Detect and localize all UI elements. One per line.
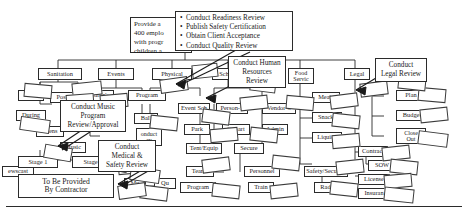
music-line-3: Review/Approval [64,121,122,130]
legal-line-1: Conduct [379,61,423,70]
medical-line-2: Medical & [102,152,152,161]
medical-line-1: Conduct [102,143,152,152]
readiness-item: Obtain Client Acceptance [186,32,289,41]
conduct-legal-review-callout[interactable]: Conduct Legal Review [375,58,427,82]
readiness-item: Conduct Readiness Review [186,14,289,23]
music-line-1: Conduct Music [64,103,122,112]
conduct-human-resources-review-callout[interactable]: Conduct Human Resources Review [228,56,286,88]
conduct-music-program-review-callout[interactable]: Conduct Music Program Review/Approval [60,100,126,132]
legal-line-2: Legal Review [379,70,423,79]
hr-line-1: Conduct Human [232,59,282,68]
hr-line-3: Review [232,77,282,86]
readiness-item: Publish Safety Certification [186,23,289,32]
hr-line-2: Resources [232,68,282,77]
medical-line-3: Safety Review [102,161,152,170]
wbs-diagram-canvas: Sanitation Events Physical Schedule Food… [0,0,468,216]
music-line-2: Program [64,112,122,121]
readiness-checklist-callout[interactable]: Conduct Readiness Review Publish Safety … [175,11,293,51]
readiness-item: Conduct Quality Review [186,42,289,51]
conduct-medical-safety-review-callout[interactable]: Conduct Medical & Safety Review [98,140,156,172]
readiness-checklist-list: Conduct Readiness Review Publish Safety … [179,14,289,51]
